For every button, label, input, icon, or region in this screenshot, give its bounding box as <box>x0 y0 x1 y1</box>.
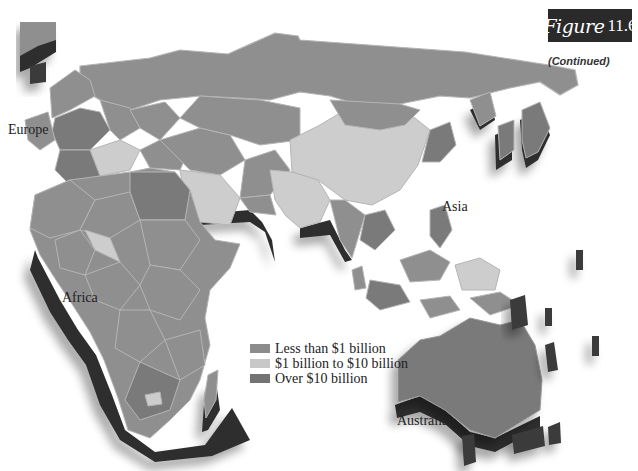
legend-item-low: Less than $1 billion <box>250 341 408 356</box>
legend-swatch-mid <box>250 359 270 368</box>
region-greenland <box>20 22 56 84</box>
legend-item-high: Over $10 billion <box>250 371 408 386</box>
map-legend: Less than $1 billion $1 billion to $10 b… <box>250 341 408 386</box>
legend-swatch-high <box>250 374 270 383</box>
figure-badge: Figure 11.6 <box>548 9 632 42</box>
label-australia: Australia <box>397 413 448 429</box>
legend-item-mid: $1 billion to $10 billion <box>250 356 408 371</box>
label-asia: Asia <box>442 199 468 215</box>
region-russia <box>80 33 578 110</box>
figure-word: Figure <box>543 15 604 37</box>
label-europe: Europe <box>8 122 48 138</box>
legend-label-mid: $1 billion to $10 billion <box>275 356 408 372</box>
legend-swatch-low <box>250 344 270 353</box>
legend-label-low: Less than $1 billion <box>275 341 386 357</box>
choropleth-map <box>0 0 638 471</box>
figure-number: 11.6 <box>607 16 636 36</box>
label-africa: Africa <box>62 290 98 306</box>
continued-label: (Continued) <box>548 55 610 67</box>
legend-label-high: Over $10 billion <box>275 371 368 387</box>
